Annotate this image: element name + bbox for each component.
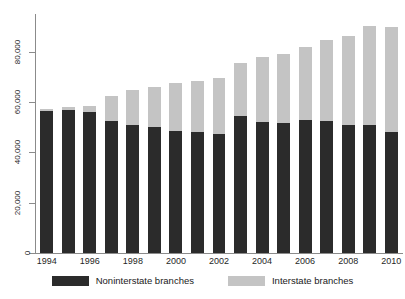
bar-1994[interactable] (40, 109, 53, 253)
bar-2003[interactable] (234, 63, 247, 253)
y-axis-tick-label: 0 (0, 246, 30, 260)
legend-swatch-icon (228, 276, 265, 286)
bar-2000[interactable] (169, 83, 182, 253)
bar-segment-interstate (234, 63, 247, 117)
y-axis-tick-label: 20,000 (0, 196, 30, 210)
x-axis-tick-label-1994: 1994 (31, 256, 63, 266)
bar-2006[interactable] (299, 47, 312, 253)
bar-segment-noninterstate (213, 134, 226, 254)
bar-segment-interstate (363, 26, 376, 125)
bar-1997[interactable] (105, 96, 118, 253)
bar-2008[interactable] (342, 36, 355, 253)
bar-1999[interactable] (148, 87, 161, 253)
bar-segment-interstate (105, 96, 118, 121)
bar-segment-interstate (191, 81, 204, 132)
bar-segment-noninterstate (385, 132, 398, 253)
bar-segment-interstate (299, 47, 312, 119)
bar-2001[interactable] (191, 81, 204, 253)
bar-segment-noninterstate (342, 125, 355, 253)
bar-segment-noninterstate (148, 127, 161, 253)
chart-legend: Noninterstate branchesInterstate branche… (0, 275, 405, 286)
bar-2004[interactable] (256, 57, 269, 253)
bar-2007[interactable] (320, 40, 333, 253)
bar-1996[interactable] (83, 106, 96, 253)
bar-2005[interactable] (277, 54, 290, 253)
chart-figure: 020,00040,00060,00080,000 19941996199820… (0, 0, 405, 299)
bar-segment-interstate (320, 40, 333, 121)
bar-2010[interactable] (385, 27, 398, 253)
bar-segment-noninterstate (256, 122, 269, 253)
bar-segment-interstate (213, 78, 226, 133)
bar-segment-noninterstate (234, 116, 247, 253)
x-axis-tick-label-2010: 2010 (375, 256, 405, 266)
bar-1995[interactable] (62, 107, 75, 253)
bar-segment-interstate (256, 57, 269, 122)
bar-segment-noninterstate (363, 125, 376, 253)
bar-segment-noninterstate (299, 120, 312, 253)
x-axis-tick-label-2006: 2006 (289, 256, 321, 266)
y-axis-tick-label-text: 60,000 (11, 90, 25, 114)
legend-label: Interstate branches (272, 275, 353, 286)
legend-entry-interstate[interactable]: Interstate branches (228, 275, 353, 286)
x-axis-tick-label-2000: 2000 (160, 256, 192, 266)
bar-segment-noninterstate (62, 110, 75, 253)
x-axis-tick-label-2002: 2002 (203, 256, 235, 266)
bar-1998[interactable] (126, 90, 139, 253)
bar-2002[interactable] (213, 78, 226, 253)
plot-area (36, 14, 402, 253)
x-axis-tick-label-2004: 2004 (246, 256, 278, 266)
bar-segment-noninterstate (191, 132, 204, 253)
bar-segment-noninterstate (105, 121, 118, 253)
bar-segment-interstate (342, 36, 355, 125)
bar-segment-interstate (126, 90, 139, 124)
bar-segment-noninterstate (126, 125, 139, 253)
x-axis-tick-label-2008: 2008 (332, 256, 364, 266)
bar-segment-interstate (385, 27, 398, 132)
x-axis-tick-label-1996: 1996 (74, 256, 106, 266)
bar-segment-interstate (277, 54, 290, 123)
bar-segment-noninterstate (83, 112, 96, 253)
bar-segment-interstate (169, 83, 182, 131)
legend-label: Noninterstate branches (96, 275, 194, 286)
bar-segment-interstate (148, 87, 161, 127)
y-axis-tick-label: 60,000 (0, 95, 30, 109)
y-axis-tick-label: 40,000 (0, 145, 30, 159)
x-axis-tick-label-1998: 1998 (117, 256, 149, 266)
y-axis-tick-label-text: 40,000 (11, 140, 25, 164)
bar-segment-noninterstate (277, 123, 290, 253)
legend-swatch-icon (52, 276, 89, 286)
y-axis-tick-label-text: 0 (21, 251, 35, 255)
y-axis-tick-label: 80,000 (0, 45, 30, 59)
bar-segment-noninterstate (320, 121, 333, 253)
y-axis-tick-label-text: 20,000 (11, 190, 25, 214)
x-axis-line (35, 253, 403, 254)
bar-2009[interactable] (363, 26, 376, 253)
legend-entry-noninterstate[interactable]: Noninterstate branches (52, 275, 194, 286)
bar-segment-noninterstate (40, 111, 53, 253)
y-axis-tick-label-text: 80,000 (11, 40, 25, 64)
bar-segment-noninterstate (169, 131, 182, 253)
